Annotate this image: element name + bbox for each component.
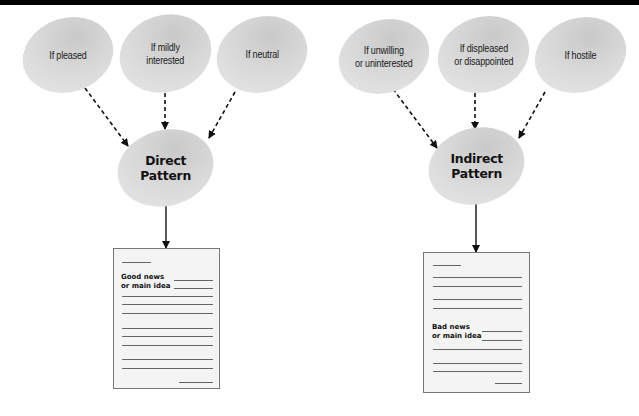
- indirect-letter-document: Bad news or main idea: [423, 252, 530, 393]
- pattern-label: Indirect Pattern: [450, 151, 503, 181]
- pattern-label: Direct Pattern: [140, 153, 191, 183]
- condition-label: If displeased or disappointed: [454, 42, 513, 67]
- condition-label: If neutral: [245, 48, 278, 61]
- arrow-neutral-to-direct: [209, 92, 235, 138]
- arrow-unwilling-to-indirect: [393, 89, 437, 148]
- condition-label: If mildly interested: [147, 41, 185, 66]
- document-main-point-label: Bad news or main idea: [432, 323, 481, 341]
- document-main-point-label: Good news or main idea: [121, 273, 170, 291]
- condition-label: If hostile: [565, 49, 597, 62]
- direct-letter-document: Good news or main idea: [113, 248, 220, 389]
- arrow-hostile-to-indirect: [519, 92, 545, 138]
- arrow-pleased-to-direct: [85, 88, 128, 146]
- condition-label: If unwilling or uninterested: [355, 44, 413, 69]
- condition-label: If pleased: [49, 49, 86, 62]
